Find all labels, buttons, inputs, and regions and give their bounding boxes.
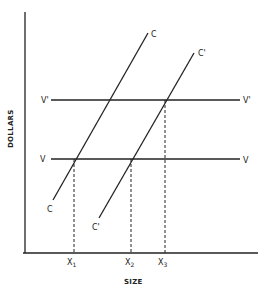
c-label-top: C [151,30,157,39]
c-prime-line [99,53,194,218]
c-prime-label-bottom: C' [92,223,100,232]
x-axis-label: SIZE [124,278,143,286]
cost-value-diagram: C C C' C' V' V' V V X1 X2 X3 SIZE DOLLAR… [0,0,265,292]
v-prime-label-right: V' [243,96,251,105]
v-label-left: V [40,155,46,164]
y-axis-label: DOLLARS [7,109,15,148]
x3-label: X3 [158,258,167,268]
x1-label: X1 [67,258,76,268]
c-label-bottom: C [47,205,53,214]
c-prime-label-top: C' [198,49,206,58]
c-line [53,33,148,200]
x2-label: X2 [125,258,134,268]
v-label-right: V [243,156,249,165]
v-prime-label-left: V' [41,96,49,105]
